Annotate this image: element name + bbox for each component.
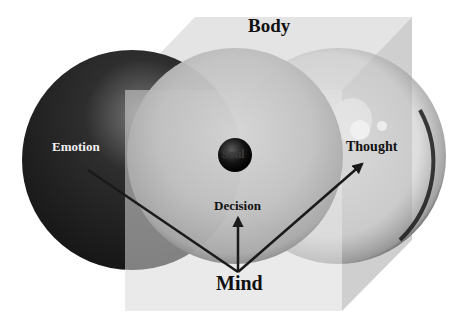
- mind-label: Mind: [216, 272, 263, 295]
- emotion-label: Emotion: [52, 139, 100, 155]
- mind-body-soul-diagram: Body Emotion Soul Thought Decision Mind: [0, 0, 473, 326]
- decision-label: Decision: [214, 198, 261, 214]
- soul-label: Soul: [222, 147, 245, 162]
- body-label: Body: [248, 15, 290, 37]
- thought-label: Thought: [346, 139, 397, 155]
